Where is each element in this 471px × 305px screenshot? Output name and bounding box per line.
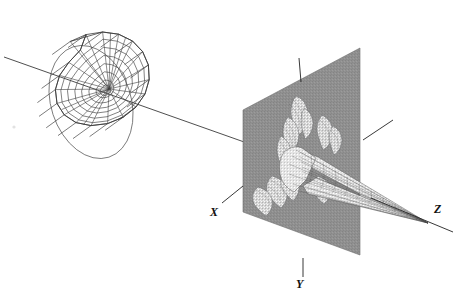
axis-tick-negative-x (363, 120, 393, 140)
diagram-svg (0, 0, 471, 305)
scan-artifact (12, 125, 15, 128)
axis-label-x: X (210, 206, 218, 218)
circular-aperture-wireframe (35, 32, 149, 170)
axis-leader-x (222, 186, 243, 203)
axis-label-z: Z (434, 203, 441, 215)
axis-label-y: Y (296, 278, 303, 290)
axis-tick-negative-y (299, 58, 301, 82)
figure-canvas: X Y Z (0, 0, 471, 305)
